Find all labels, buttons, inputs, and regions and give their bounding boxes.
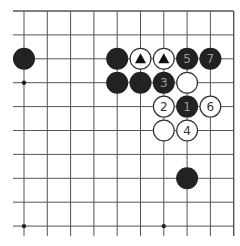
move-number-label: 3 bbox=[160, 76, 168, 90]
black-stone bbox=[13, 48, 35, 70]
grid-lines bbox=[13, 11, 234, 236]
star-point bbox=[22, 81, 26, 85]
white-stone: 4 bbox=[177, 120, 198, 141]
white-stone-body bbox=[153, 120, 174, 141]
go-board-diagram: 5732164 bbox=[0, 0, 240, 246]
black-stone-body bbox=[13, 48, 35, 70]
white-stone bbox=[153, 48, 174, 69]
star-point bbox=[162, 224, 166, 228]
black-stone: 5 bbox=[176, 48, 198, 70]
white-stone-body bbox=[177, 72, 198, 93]
white-stone bbox=[153, 120, 174, 141]
move-number-label: 2 bbox=[160, 100, 168, 114]
white-stone: 2 bbox=[153, 96, 174, 117]
black-stone: 3 bbox=[153, 72, 175, 94]
move-number-label: 6 bbox=[207, 100, 215, 114]
black-stone bbox=[176, 167, 198, 189]
black-stone-body bbox=[106, 48, 128, 70]
black-stone: 7 bbox=[199, 48, 221, 70]
black-stone: 1 bbox=[176, 96, 198, 118]
white-stone bbox=[130, 48, 151, 69]
move-number-label: 5 bbox=[183, 52, 191, 66]
move-number-label: 1 bbox=[183, 100, 191, 114]
black-stone-body bbox=[176, 167, 198, 189]
black-stone bbox=[130, 72, 152, 94]
black-stone bbox=[106, 48, 128, 70]
white-stone: 6 bbox=[200, 96, 221, 117]
black-stone-body bbox=[106, 72, 128, 94]
black-stone bbox=[106, 72, 128, 94]
move-number-label: 7 bbox=[207, 52, 215, 66]
white-stone bbox=[177, 72, 198, 93]
move-number-label: 4 bbox=[183, 124, 191, 138]
go-board-canvas: 5732164 bbox=[0, 0, 240, 246]
star-point bbox=[22, 224, 26, 228]
black-stone-body bbox=[130, 72, 152, 94]
